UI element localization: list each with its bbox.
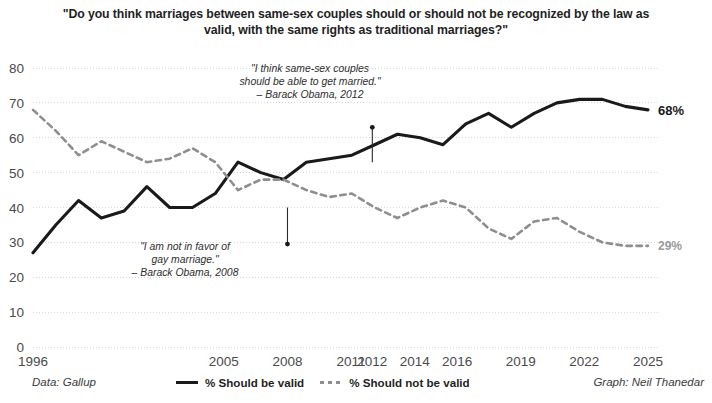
x-axis-tick-label: 2005 (209, 354, 239, 369)
annotation-obama-2012: "I think same-sex couples should be able… (212, 62, 408, 102)
x-axis-tick-label: 2008 (272, 354, 302, 369)
end-label-not-valid: 29% (658, 239, 682, 253)
chart-figure: "Do you think marriages between same-sex… (0, 0, 712, 403)
annotation-obama-2008: "I am not in favor of gay marriage." – B… (100, 240, 270, 280)
chart-legend: % Should be valid % Should not be valid (176, 376, 470, 389)
x-axis-tick-label: 2019 (506, 354, 536, 369)
legend-item-valid: % Should be valid (176, 376, 304, 389)
x-axis-tick-label: 2014 (400, 354, 431, 369)
legend-label-not-valid: % Should not be valid (349, 376, 469, 389)
x-axis-tick-label: 2025 (633, 354, 663, 369)
x-axis-tick-label: 2016 (442, 354, 472, 369)
y-axis-tick-label: 60 (9, 131, 24, 146)
solid-line-icon (176, 381, 198, 384)
chart-plot-area: 0102030405060708019962005200820112012201… (0, 0, 712, 403)
y-axis-tick-label: 30 (9, 235, 24, 250)
y-axis-tick-label: 20 (9, 270, 24, 285)
legend-item-not-valid: % Should not be valid (320, 376, 469, 389)
x-axis-tick-label: 1996 (18, 354, 48, 369)
dashed-line-icon (320, 381, 342, 384)
y-axis-tick-label: 40 (9, 201, 24, 216)
y-axis-tick-label: 0 (16, 340, 24, 355)
chart-footer: Data: Gallup % Should be valid % Should … (0, 376, 712, 398)
annotation-marker-dot (285, 242, 290, 247)
graph-credit-label: Graph: Neil Thanedar (593, 376, 704, 388)
x-axis-tick-label: 2022 (569, 354, 599, 369)
legend-label-valid: % Should be valid (205, 376, 304, 389)
series-line-valid (33, 99, 648, 252)
annotation-marker-dot (370, 125, 375, 130)
end-label-valid: 68% (658, 103, 684, 118)
y-axis-tick-label: 80 (9, 61, 24, 76)
y-axis-tick-label: 10 (9, 305, 24, 320)
data-source-label: Data: Gallup (32, 376, 96, 388)
y-axis-tick-label: 70 (9, 96, 24, 111)
series-line-not-valid (33, 110, 648, 246)
y-axis-tick-label: 50 (9, 166, 24, 181)
x-axis-tick-label: 2012 (357, 354, 387, 369)
